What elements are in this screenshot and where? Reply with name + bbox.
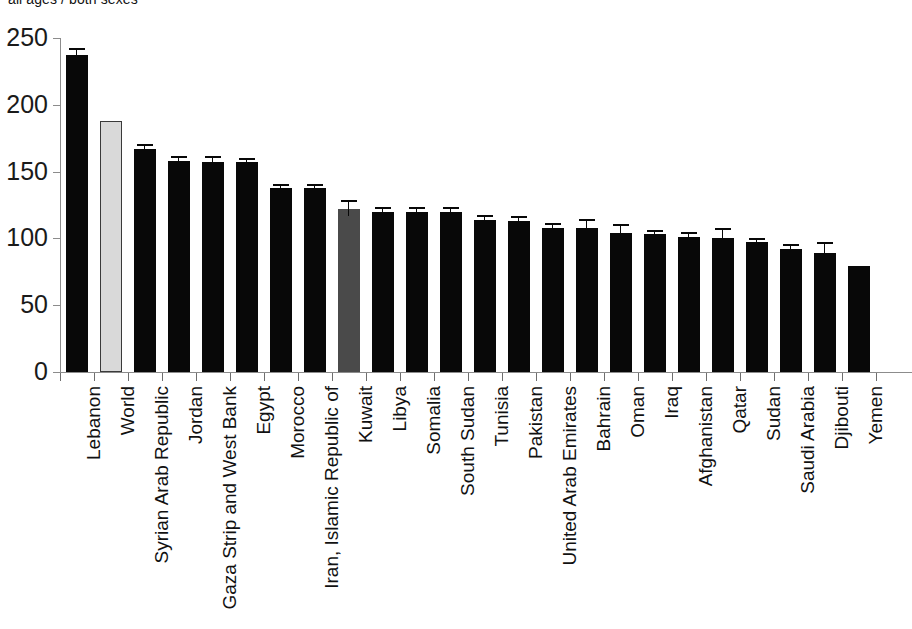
bar-sudan[interactable] (740, 38, 774, 372)
category-label-iraq: Iraq (662, 386, 681, 419)
bar-rect (100, 121, 122, 372)
x-axis-line (60, 372, 912, 373)
error-bar-line (280, 186, 281, 189)
category-label-oman: Oman (628, 386, 647, 438)
error-bar-cap-top (375, 207, 391, 209)
bar-bahrain[interactable] (570, 38, 604, 372)
bar-syrian-arab-republic[interactable] (128, 38, 162, 372)
error-bar-cap-top (69, 48, 85, 50)
bar-rect (576, 228, 598, 372)
error-bar-line (382, 209, 383, 214)
category-label-kuwait: Kuwait (356, 386, 375, 443)
error-bar-line (586, 221, 587, 234)
bar-world[interactable] (94, 38, 128, 372)
error-bar-line (450, 209, 451, 214)
bar-tunisia[interactable] (468, 38, 502, 372)
bar-kuwait[interactable] (332, 38, 366, 372)
x-tick-mark (196, 373, 197, 381)
plot-area (60, 38, 912, 372)
category-label-south-sudan: South Sudan (458, 386, 477, 496)
error-bar-line (688, 234, 689, 239)
category-label-yemen: Yemen (866, 386, 885, 444)
bar-jordan[interactable] (162, 38, 196, 372)
category-label-pakistan: Pakistan (526, 386, 545, 459)
bar-libya[interactable] (366, 38, 400, 372)
y-tick-label: 250 (0, 24, 48, 51)
bar-chart: all ages / both sexes 050100150200250 Le… (0, 0, 912, 629)
y-tick-label: 100 (0, 224, 48, 251)
error-bar-line (178, 158, 179, 163)
bar-yemen[interactable] (842, 38, 876, 372)
x-tick-mark (706, 373, 707, 381)
bar-morocco[interactable] (264, 38, 298, 372)
bar-rect (406, 212, 428, 372)
bar-rect (814, 253, 836, 372)
bar-rect (610, 233, 632, 372)
y-tick-label: 50 (0, 291, 48, 318)
category-label-syrian-arab-republic: Syrian Arab Republic (152, 386, 171, 563)
error-bar-line (824, 244, 825, 263)
bar-rect (542, 228, 564, 372)
error-bar-cap-top (171, 156, 187, 158)
error-bar-cap-top (341, 200, 357, 202)
error-bar-cap-top (647, 230, 663, 232)
bar-qatar[interactable] (706, 38, 740, 372)
error-bar-line (144, 146, 145, 151)
category-label-morocco: Morocco (288, 386, 307, 459)
category-label-sudan: Sudan (764, 386, 783, 441)
error-bar-cap-top (545, 223, 561, 225)
bar-oman[interactable] (604, 38, 638, 372)
error-bar-line (620, 226, 621, 239)
bar-djibouti[interactable] (808, 38, 842, 372)
x-tick-mark (536, 373, 537, 381)
x-tick-mark (366, 373, 367, 381)
category-label-tunisia: Tunisia (492, 386, 511, 447)
x-tick-mark (842, 373, 843, 381)
bar-iraq[interactable] (638, 38, 672, 372)
bar-afghanistan[interactable] (672, 38, 706, 372)
error-bar-cap-top (239, 158, 255, 160)
x-tick-mark (638, 373, 639, 381)
x-tick-mark (332, 373, 333, 381)
chart-title: all ages / both sexes (8, 0, 138, 7)
bar-gaza-strip-and-west-bank[interactable] (196, 38, 230, 372)
x-tick-mark (298, 373, 299, 381)
bar-rect (644, 234, 666, 372)
error-bar-cap-top (273, 184, 289, 186)
bar-united-arab-emirates[interactable] (536, 38, 570, 372)
bar-south-sudan[interactable] (434, 38, 468, 372)
bar-iran-islamic-republic-of[interactable] (298, 38, 332, 372)
error-bar-line (212, 158, 213, 166)
y-tick-label: 150 (0, 158, 48, 185)
bar-egypt[interactable] (230, 38, 264, 372)
category-label-gaza-strip-and-west-bank: Gaza Strip and West Bank (220, 386, 239, 610)
x-tick-mark (468, 373, 469, 381)
bar-rect (236, 162, 258, 372)
error-bar-cap-top (715, 228, 731, 230)
error-bar-line (246, 160, 247, 165)
bar-pakistan[interactable] (502, 38, 536, 372)
error-bar-cap-top (137, 144, 153, 146)
category-label-djibouti: Djibouti (832, 386, 851, 449)
bar-lebanon[interactable] (60, 38, 94, 372)
bar-rect (780, 249, 802, 372)
error-bar-cap-top (783, 244, 799, 246)
x-tick-mark (94, 373, 95, 381)
error-bar-line (518, 218, 519, 223)
x-tick-mark (162, 373, 163, 381)
bar-rect (712, 238, 734, 372)
x-tick-mark (774, 373, 775, 381)
bar-saudi-arabia[interactable] (774, 38, 808, 372)
error-bar-line (756, 240, 757, 245)
category-label-united-arab-emirates: United Arab Emirates (560, 386, 579, 566)
error-bar-cap-top (613, 224, 629, 226)
error-bar-cap-top (579, 219, 595, 221)
x-tick-mark (60, 373, 61, 381)
category-label-egypt: Egypt (254, 386, 273, 435)
error-bar-line (722, 230, 723, 246)
x-tick-mark (264, 373, 265, 381)
x-tick-mark (672, 373, 673, 381)
error-bar-line (348, 202, 349, 215)
bar-somalia[interactable] (400, 38, 434, 372)
error-bar-cap-top (817, 242, 833, 244)
